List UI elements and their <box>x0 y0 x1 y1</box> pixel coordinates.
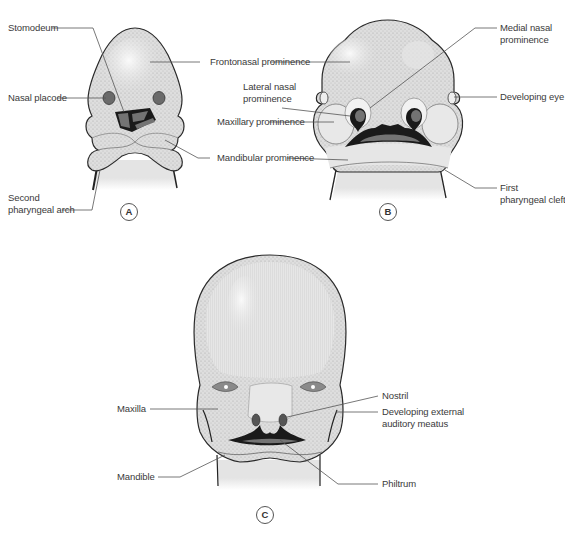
label-lateral-nasal-prominence-line1: Lateral nasal <box>243 81 296 93</box>
panel-a-embryo-face <box>86 28 184 190</box>
label-maxilla: Maxilla <box>117 403 146 415</box>
label-developing-eye: Developing eye <box>500 91 564 103</box>
panel-letter-b: B <box>379 203 397 221</box>
label-lateral-nasal-prominence-line2: prominence <box>243 93 292 105</box>
label-nasal-placode: Nasal placode <box>8 92 67 104</box>
label-mandible: Mandible <box>117 471 155 483</box>
label-developing-external-auditory-meatus-line2: auditory meatus <box>382 418 448 430</box>
label-medial-nasal-prominence-line2: prominence <box>500 34 549 46</box>
label-second-pharyngeal-arch-line1: Second <box>8 192 40 204</box>
panel-letter-c: C <box>256 506 274 524</box>
label-maxillary-prominence: Maxillary prominence <box>217 116 305 128</box>
label-second-pharyngeal-arch-line2: pharyngeal arch <box>8 204 75 216</box>
label-nostril: Nostril <box>382 390 408 402</box>
label-first-pharyngeal-cleft-line2: pharyngeal cleft <box>500 194 565 206</box>
label-developing-external-auditory-meatus-line1: Developing external <box>382 406 464 418</box>
label-philtrum: Philtrum <box>382 478 416 490</box>
label-first-pharyngeal-cleft-line1: First <box>500 182 518 194</box>
label-stomodeum: Stomodeum <box>8 22 58 34</box>
label-medial-nasal-prominence-line1: Medial nasal <box>500 22 552 34</box>
panel-c-fetal-face <box>194 255 346 490</box>
label-frontonasal-prominence: Frontonasal prominence <box>210 56 310 68</box>
panel-letter-a: A <box>120 203 138 221</box>
panel-b-embryo-face <box>313 20 462 200</box>
label-mandibular-prominence: Mandibular prominence <box>217 152 314 164</box>
